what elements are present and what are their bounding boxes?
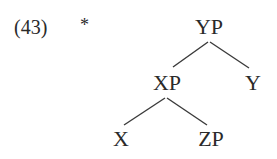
node-y: Y bbox=[245, 72, 261, 94]
node-zp: ZP bbox=[198, 128, 224, 150]
node-x: X bbox=[113, 128, 129, 150]
node-xp: XP bbox=[153, 72, 181, 94]
branch-yp-xp bbox=[173, 42, 208, 67]
branch-xp-zp bbox=[167, 98, 207, 125]
branch-xp-x bbox=[124, 98, 165, 125]
tree-branches bbox=[0, 0, 277, 159]
node-yp: YP bbox=[195, 16, 223, 38]
branch-yp-y bbox=[210, 42, 249, 68]
